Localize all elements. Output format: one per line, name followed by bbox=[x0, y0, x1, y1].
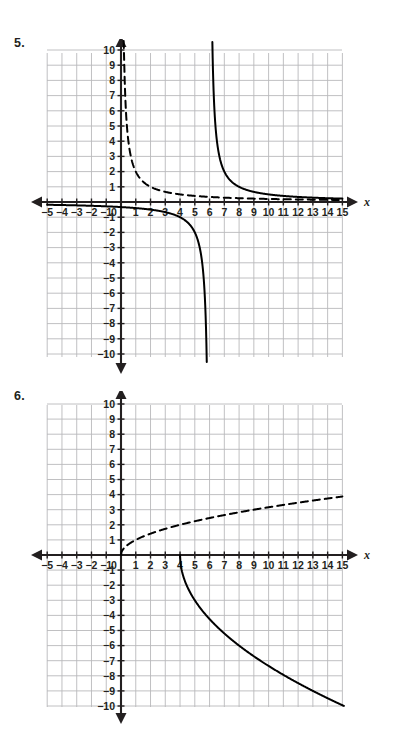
x-axis-tick-label: 13 bbox=[307, 206, 319, 218]
y-axis-tick-label: −7 bbox=[103, 302, 115, 314]
x-axis-tick-label: 8 bbox=[236, 559, 242, 571]
y-axis-tick-label: −1 bbox=[103, 211, 115, 223]
y-axis-tick-label: −4 bbox=[103, 609, 115, 621]
x-axis-tick-label: 7 bbox=[221, 206, 227, 218]
x-axis-tick-label: −3 bbox=[71, 559, 83, 571]
y-axis-tick-label: −4 bbox=[103, 257, 115, 269]
y-axis-tick-label: −2 bbox=[103, 226, 115, 238]
x-axis-tick-label: 9 bbox=[251, 206, 257, 218]
y-axis-tick-label: 5 bbox=[109, 120, 115, 132]
graph-root: −5−4−3−2−1012345678910111213141510987654… bbox=[31, 39, 370, 374]
x-axis-tick-label: 3 bbox=[162, 559, 168, 571]
x-axis-arrow-right bbox=[347, 197, 358, 208]
x-axis-tick-label: 6 bbox=[207, 206, 213, 218]
y-axis-tick-label: 4 bbox=[109, 135, 115, 147]
y-axis-tick-label: 10 bbox=[103, 44, 115, 56]
y-axis-arrow-down bbox=[116, 713, 127, 724]
y-axis-tick-label: −6 bbox=[103, 287, 115, 299]
x-axis-arrow-right bbox=[347, 550, 358, 561]
x-axis-tick-label: 6 bbox=[207, 559, 213, 571]
coordinate-plane-problem-6: −5−4−3−2−1012345678910111213141510987654… bbox=[0, 391, 400, 739]
x-axis-tick-label: −5 bbox=[41, 206, 53, 218]
x-axis-tick-label: 12 bbox=[292, 206, 304, 218]
x-axis-tick-label: 5 bbox=[192, 206, 198, 218]
x-axis-tick-label: 11 bbox=[278, 206, 289, 218]
x-axis-tick-label: −4 bbox=[56, 559, 68, 571]
y-axis-tick-label: −5 bbox=[103, 272, 115, 284]
y-axis-tick-label: −8 bbox=[103, 670, 115, 682]
y-axis-tick-label: −8 bbox=[103, 317, 115, 329]
y-axis-tick-label: 7 bbox=[109, 443, 115, 455]
x-axis-tick-label: 12 bbox=[292, 559, 304, 571]
x-axis-tick-label: 10 bbox=[263, 559, 275, 571]
y-axis-tick-label: 9 bbox=[109, 413, 115, 425]
y-axis-tick-label: 5 bbox=[109, 473, 115, 485]
dashed-square-root-parent-curve bbox=[121, 497, 342, 555]
y-axis-tick-label: 8 bbox=[109, 74, 115, 86]
y-axis-tick-label: 1 bbox=[109, 534, 115, 546]
x-axis-tick-label: −2 bbox=[85, 559, 97, 571]
x-axis-tick-label: 13 bbox=[307, 559, 319, 571]
y-axis-tick-label: −3 bbox=[103, 594, 115, 606]
y-axis-arrow-up bbox=[116, 391, 127, 399]
y-axis-tick-label: −2 bbox=[103, 579, 115, 591]
y-axis-tick-label: 8 bbox=[109, 428, 115, 440]
dashed-reciprocal-parent-curve bbox=[124, 41, 343, 200]
x-axis-tick-label: 14 bbox=[322, 559, 334, 571]
x-axis-tick-label: 2 bbox=[148, 559, 154, 571]
y-axis-tick-label: −3 bbox=[103, 241, 115, 253]
y-axis-tick-label: −9 bbox=[103, 685, 115, 697]
y-axis-tick-label: 3 bbox=[109, 504, 115, 516]
graph-root: −5−4−3−2−1012345678910111213141510987654… bbox=[31, 391, 370, 724]
y-axis-arrow-up bbox=[116, 39, 127, 47]
y-axis-tick-label: 1 bbox=[109, 181, 115, 193]
x-axis-tick-label: 7 bbox=[221, 559, 227, 571]
x-axis-tick-label: 1 bbox=[133, 559, 139, 571]
y-axis-tick-label: −5 bbox=[103, 624, 115, 636]
y-axis-tick-label: 3 bbox=[109, 150, 115, 162]
x-axis-name-label: x bbox=[363, 548, 370, 562]
y-axis-tick-label: 6 bbox=[109, 458, 115, 470]
x-axis-tick-label: −2 bbox=[85, 206, 97, 218]
y-axis-tick-label: −10 bbox=[97, 348, 115, 360]
x-axis-tick-label: 14 bbox=[322, 206, 334, 218]
x-axis-tick-label: 5 bbox=[192, 559, 198, 571]
x-axis-tick-label: 15 bbox=[337, 559, 349, 571]
x-axis-tick-label: 8 bbox=[236, 206, 242, 218]
y-axis-tick-label: 4 bbox=[109, 488, 115, 500]
y-axis-tick-label: 2 bbox=[109, 519, 115, 531]
y-axis-tick-label: 6 bbox=[109, 105, 115, 117]
y-axis-tick-label: 7 bbox=[109, 89, 115, 101]
y-axis-tick-label: 2 bbox=[109, 165, 115, 177]
y-axis-tick-label: −1 bbox=[103, 564, 115, 576]
y-axis-tick-label: −10 bbox=[97, 700, 115, 712]
y-axis-arrow-down bbox=[116, 363, 127, 374]
graph-container-problem-6: −5−4−3−2−1012345678910111213141510987654… bbox=[0, 391, 400, 739]
y-axis-tick-label: 10 bbox=[103, 398, 115, 410]
x-axis-tick-label: −4 bbox=[56, 206, 68, 218]
coordinate-plane-problem-5: −5−4−3−2−1012345678910111213141510987654… bbox=[0, 39, 400, 389]
x-axis-tick-label: −5 bbox=[41, 559, 53, 571]
x-axis-tick-label: 10 bbox=[263, 206, 275, 218]
x-axis-tick-label: 15 bbox=[337, 206, 349, 218]
graph-container-problem-5: −5−4−3−2−1012345678910111213141510987654… bbox=[0, 39, 400, 389]
x-axis-tick-label: 2 bbox=[148, 206, 154, 218]
x-axis-name-label: x bbox=[363, 195, 370, 209]
x-axis-tick-label: −3 bbox=[71, 206, 83, 218]
x-axis-tick-label: 11 bbox=[278, 559, 289, 571]
function-curves bbox=[121, 497, 344, 706]
y-axis-tick-label: 9 bbox=[109, 59, 115, 71]
y-axis-tick-label: −9 bbox=[103, 333, 115, 345]
y-axis-tick-label: −6 bbox=[103, 639, 115, 651]
y-axis-tick-label: −7 bbox=[103, 655, 115, 667]
x-axis-tick-label: 9 bbox=[251, 559, 257, 571]
